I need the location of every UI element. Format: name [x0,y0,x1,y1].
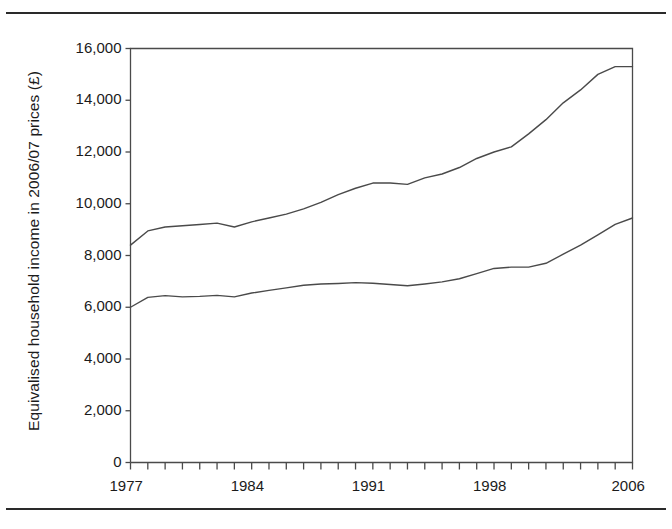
y-axis-tick-label: 16,000 [76,39,122,56]
line-chart: 02,0004,0006,0008,00010,00012,00014,0001… [0,0,672,529]
x-axis-tick-label: 1977 [110,477,143,494]
chart-canvas [0,0,672,529]
data-line-median-income [131,218,633,307]
x-axis-tick-label: 1998 [473,477,506,494]
y-axis-tick-label: 2,000 [84,401,122,418]
x-axis-tick-label: 2006 [612,477,645,494]
y-axis-tick-label: 6,000 [84,297,122,314]
y-axis-tick-label: 14,000 [76,90,122,107]
data-line-mean-income [131,67,633,246]
x-axis-tick-label: 1984 [231,477,264,494]
y-axis-tick-label: 10,000 [76,194,122,211]
y-axis-tick-label: 4,000 [84,349,122,366]
figure: Equivalised household income in 2006/07 … [0,0,672,529]
y-axis-tick-label: 8,000 [84,246,122,263]
x-axis-tick-label: 1991 [352,477,385,494]
y-axis-tick-label: 12,000 [76,142,122,159]
y-axis-tick-label: 0 [113,453,121,470]
plot-frame [131,49,633,463]
